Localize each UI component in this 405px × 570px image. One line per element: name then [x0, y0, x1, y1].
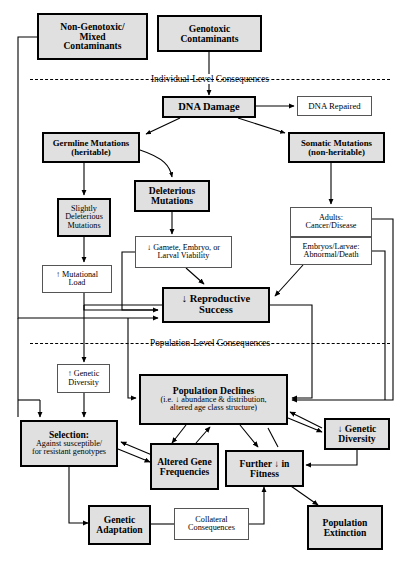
node-adults-cancer-disease[interactable]: Adults: Cancer/Disease — [290, 207, 372, 237]
node-label-line: (non-heritable) — [308, 148, 365, 157]
node-label-line: Extinction — [324, 528, 367, 538]
node-label-line: altered age class structure) — [170, 404, 257, 412]
node-label-line: (heritable) — [71, 148, 111, 157]
node-reproductive-success[interactable]: ↓ Reproductive Success — [162, 287, 270, 323]
node-label-line: Frequencies — [160, 467, 209, 477]
node-label-line: Load — [69, 279, 86, 287]
node-label-line: Mutations — [67, 222, 100, 230]
node-genetic-diversity-increase[interactable]: ↑ Genetic Diversity — [57, 364, 110, 393]
node-label-line: Consequences — [188, 524, 235, 532]
divider-line — [30, 343, 390, 344]
node-somatic-mutations[interactable]: Somatic Mutations (non-heritable) — [288, 132, 385, 163]
node-label-line: Success — [199, 305, 233, 316]
node-label-line: Adaptation — [96, 525, 142, 535]
node-genetic-adaptation[interactable]: Genetic Adaptation — [88, 505, 151, 545]
node-population-extinction[interactable]: Population Extinction — [307, 505, 383, 550]
divider-population-level: Population-Level Consequences — [30, 336, 390, 350]
node-label-line: Diversity — [338, 434, 375, 444]
node-label-line: Mutations — [151, 196, 193, 206]
node-label-line: Cancer/Disease — [306, 222, 357, 230]
node-selection[interactable]: Selection: Against susceptible/ for resi… — [20, 420, 118, 467]
node-gamete-embryo-larval-viability[interactable]: ↓ Gamete, Embryo, or Larval Viability — [135, 236, 232, 268]
node-non-genotoxic-contaminants[interactable]: Non-Genotoxic/ Mixed Contaminants — [37, 13, 148, 60]
node-slightly-deleterious-mutations[interactable]: Slightly Deleterious Mutations — [57, 198, 111, 237]
divider-line — [30, 79, 390, 80]
node-label-line: DNA Damage — [178, 102, 240, 113]
node-dna-damage[interactable]: DNA Damage — [162, 96, 256, 118]
node-population-declines[interactable]: Population Declines (i.e. ↓ abundance & … — [139, 374, 288, 425]
node-dna-repaired[interactable]: DNA Repaired — [297, 96, 372, 116]
node-genotoxic-contaminants[interactable]: Genotoxic Contaminants — [157, 15, 262, 52]
node-germline-mutations[interactable]: Germline Mutations (heritable) — [42, 132, 140, 163]
node-label-line: Fitness — [250, 469, 279, 479]
node-deleterious-mutations[interactable]: Deleterious Mutations — [134, 180, 210, 212]
node-genetic-diversity-decrease[interactable]: ↓ Genetic Diversity — [324, 418, 390, 450]
node-collateral-consequences[interactable]: Collateral Consequences — [174, 508, 249, 540]
node-embryos-larvae-abnormal-death[interactable]: Embryos/Larvae: Abnormal/Death — [290, 237, 372, 265]
node-altered-gene-frequencies[interactable]: Altered Gene Frequencies — [150, 443, 219, 490]
node-mutational-load[interactable]: ↑ Mutational Load — [42, 265, 112, 293]
node-label-line: DNA Repaired — [308, 102, 361, 111]
node-label-line: for resistant genotypes — [32, 448, 106, 456]
node-label-line: Abnormal/Death — [303, 251, 358, 259]
node-label-line: Contaminants — [180, 34, 238, 44]
node-further-decline-in-fitness[interactable]: Further ↓ in Fitness — [225, 450, 304, 487]
divider-individual-level: Individual-Level Consequences — [30, 72, 390, 86]
flowchart-canvas: Non-Genotoxic/ Mixed Contaminants Genoto… — [0, 0, 405, 570]
node-label-line: Diversity — [68, 379, 98, 387]
node-label-line: Larval Viability — [158, 252, 210, 260]
node-label-line: Contaminants — [63, 41, 121, 51]
